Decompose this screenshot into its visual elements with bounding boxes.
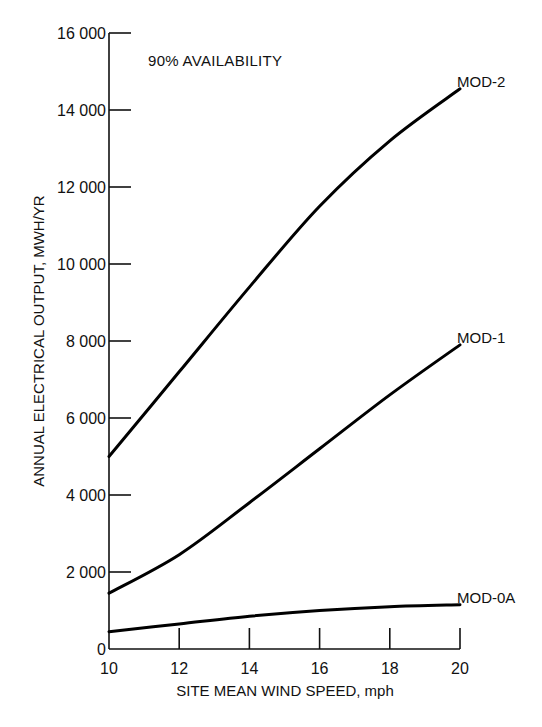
series-label-mod-1: MOD-1 [457,329,505,346]
y-tick-label: 16 000 [57,25,106,42]
y-axis-ticks: 02 0004 0006 0008 00010 00012 00014 0001… [57,25,131,658]
series-labels: MOD-2MOD-1MOD-0A [457,73,515,606]
series-label-mod-2: MOD-2 [457,73,505,90]
x-axis-ticks: 101214161820 [100,628,469,677]
x-tick-label: 10 [100,660,118,677]
y-tick-label: 0 [97,641,106,658]
availability-annotation: 90% AVAILABILITY [148,52,282,69]
chart: 02 0004 0006 0008 00010 00012 00014 0001… [0,0,542,727]
y-axis-title: ANNUAL ELECTRICAL OUTPUT, MWH/YR [30,195,47,487]
y-tick-label: 4 000 [66,487,106,504]
series-line-mod-0a [109,605,460,632]
series-label-mod-0a: MOD-0A [457,589,515,606]
x-tick-label: 20 [451,660,469,677]
x-tick-label: 12 [170,660,188,677]
x-tick-label: 16 [311,660,329,677]
x-tick-label: 18 [381,660,399,677]
x-tick-label: 14 [241,660,259,677]
series-line-mod-2 [109,89,460,457]
x-axis-title: SITE MEAN WIND SPEED, mph [176,682,394,699]
y-tick-label: 14 000 [57,102,106,119]
y-tick-label: 12 000 [57,179,106,196]
y-tick-label: 2 000 [66,564,106,581]
y-tick-label: 6 000 [66,410,106,427]
series-line-mod-1 [109,345,460,593]
y-tick-label: 8 000 [66,333,106,350]
series-lines [109,89,460,632]
y-tick-label: 10 000 [57,256,106,273]
